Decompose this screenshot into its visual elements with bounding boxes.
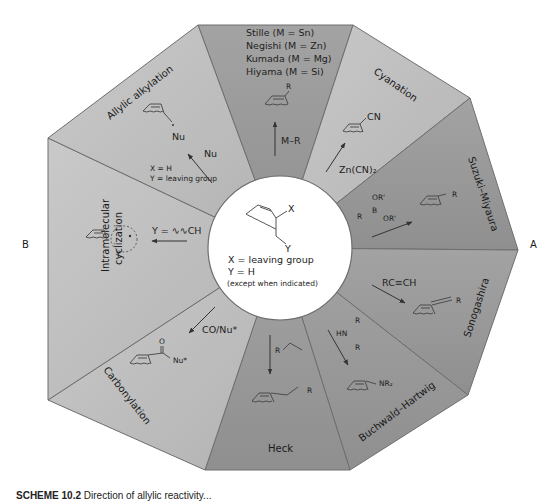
- heck-title: Heck: [268, 443, 293, 454]
- intramolecular-product-y: Y: [115, 250, 121, 259]
- allylic-note-y: Y = leaving group: [149, 174, 217, 183]
- suzuki-reagent-or1: OR': [372, 193, 385, 202]
- top-reagent: M–R: [281, 135, 301, 146]
- figure-caption: SCHEME 10.2 Direction of allylic reactiv…: [16, 490, 211, 501]
- top-product-r: R: [286, 82, 291, 91]
- carbonylation-product-o: O: [159, 337, 165, 346]
- allylic-product-nu: Nu: [172, 131, 185, 142]
- suzuki-reagent-or2: OR': [383, 214, 396, 223]
- heck-reagent-r: R: [275, 346, 280, 355]
- allylic-note-x: X = H: [150, 164, 172, 173]
- caption-label: SCHEME 10.2: [16, 490, 81, 501]
- center-x-label: X: [288, 203, 295, 214]
- center-line3: (except when indicated): [227, 279, 318, 288]
- center-line2: Y = H: [227, 266, 255, 277]
- suzuki-reagent-r: R: [357, 212, 362, 221]
- cyanation-product-cn: CN: [367, 111, 381, 122]
- vertex-label-b: B: [22, 239, 29, 250]
- suzuki-product-r: R: [452, 190, 457, 199]
- buchwald-reagent-r2: R: [355, 343, 360, 352]
- center-y-label: Y: [284, 243, 291, 254]
- hiyama-label: Hiyama (M = Si): [246, 66, 324, 77]
- suzuki-reagent-b: B: [372, 206, 377, 215]
- negishi-label: Negishi (M = Zn): [246, 40, 326, 51]
- center-circle: [208, 176, 352, 320]
- sonogashira-reagent: RC≡CH: [382, 277, 417, 288]
- cyanation-reagent: Zn(CN)₂: [339, 164, 377, 175]
- buchwald-reagent-r1: R: [355, 316, 360, 325]
- buchwald-product-nr2: NR₂: [379, 379, 393, 388]
- buchwald-reagent-hn: HN: [336, 329, 347, 338]
- caption-text: Direction of allylic reactivity...: [84, 490, 212, 501]
- vertex-label-a: A: [530, 239, 537, 250]
- intramolecular-reagent: Y = ∿∿CH: [151, 225, 202, 236]
- center-line1: X = leaving group: [228, 254, 314, 265]
- carbonylation-product-nu: Nu*: [173, 356, 187, 365]
- allylic-reagent: Nu: [204, 148, 217, 159]
- stille-label: Stille (M = Sn): [246, 27, 314, 38]
- carbonylation-reagent: CO/Nu*: [202, 324, 237, 335]
- sonogashira-product-r: R: [456, 296, 461, 305]
- heck-product-r: R: [307, 386, 312, 395]
- reaction-wheel-diagram: X Y X = leaving group Y = H (except when…: [0, 0, 560, 503]
- kumada-label: Kumada (M = Mg): [246, 53, 332, 64]
